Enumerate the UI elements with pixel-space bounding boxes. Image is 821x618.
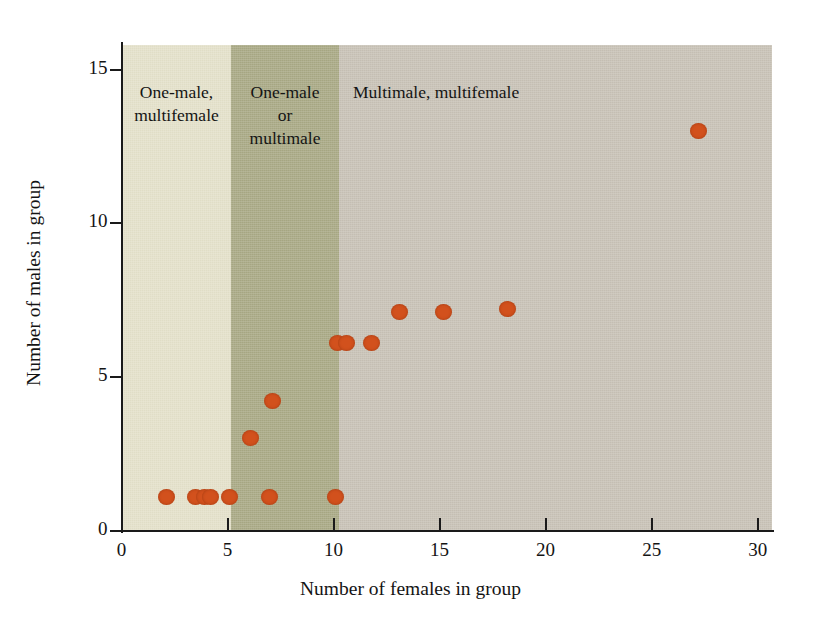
y-axis-tick [110, 376, 122, 378]
data-point [158, 489, 175, 505]
region-band-multimale-multifemale [339, 45, 772, 530]
data-point [202, 489, 219, 505]
x-axis-tick-label: 30 [738, 539, 778, 561]
data-point [338, 335, 355, 351]
x-axis-tick-label: 20 [526, 539, 566, 561]
y-axis-tick [110, 69, 122, 71]
data-point [327, 489, 344, 505]
data-point [261, 489, 278, 505]
region-label-multimale-multifemale: Multimale, multifemale [339, 81, 639, 104]
x-axis-title: Number of females in group [0, 578, 821, 600]
x-axis-tick [227, 518, 229, 531]
x-axis-line [121, 530, 774, 532]
x-axis-tick-label: 0 [102, 539, 142, 561]
x-axis-tick-label: 10 [314, 539, 354, 561]
y-axis-tick [110, 222, 122, 224]
x-axis-tick [545, 518, 547, 531]
x-axis-tick-label: 5 [208, 539, 248, 561]
region-label-one-male-or-multimale: One-male or multimale [231, 81, 339, 150]
x-axis-tick [121, 518, 123, 531]
y-axis-tick-label: 15 [64, 57, 108, 79]
x-axis-tick-label: 25 [632, 539, 672, 561]
x-axis-tick [333, 518, 335, 531]
y-axis-line [121, 42, 123, 533]
x-axis-tick [757, 518, 759, 531]
data-point [690, 123, 707, 139]
y-axis-title: Number of males in group [23, 83, 45, 483]
y-axis-tick-label: 5 [64, 364, 108, 386]
x-axis-tick-label: 15 [420, 539, 460, 561]
y-axis-tick-label: 10 [64, 210, 108, 232]
x-axis-tick [651, 518, 653, 531]
x-axis-tick [439, 518, 441, 531]
scatter-plot-figure: One-male, multifemale One-male or multim… [0, 0, 821, 618]
plot-area: One-male, multifemale One-male or multim… [122, 45, 772, 530]
y-axis-tick-label: 0 [64, 518, 108, 540]
region-label-one-male-multifemale: One-male, multifemale [122, 81, 231, 127]
data-point [221, 489, 238, 505]
data-point [264, 393, 281, 409]
